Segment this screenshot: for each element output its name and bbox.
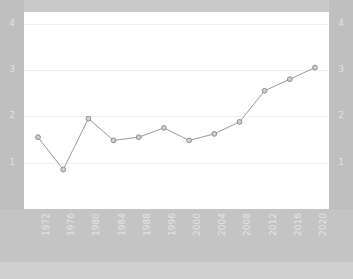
xtick-1996: 1996: [168, 213, 177, 236]
xtick-2016: 2016: [294, 213, 303, 236]
ytick-right-1: 1: [330, 158, 352, 167]
data-point-1972[interactable]: [36, 135, 41, 140]
chart-container: 4 3 2 1 4 3 2 1 197219761980198419881996…: [0, 0, 353, 279]
data-point-1984[interactable]: [111, 138, 116, 143]
ytick-right-2: 2: [330, 111, 352, 120]
xtick-2004: 2004: [218, 213, 227, 236]
data-point-1988[interactable]: [136, 135, 141, 140]
xtick-1984: 1984: [118, 213, 127, 236]
plot-area: [24, 12, 329, 209]
data-point-2020[interactable]: [313, 65, 318, 70]
xtick-1988: 1988: [143, 213, 152, 236]
data-point-1980[interactable]: [86, 116, 91, 121]
data-point-2016[interactable]: [287, 77, 292, 82]
xtick-2000: 2000: [193, 213, 202, 236]
footer-strip: [0, 262, 353, 279]
ytick-left-3: 3: [1, 65, 23, 74]
ytick-right-3: 3: [330, 65, 352, 74]
ytick-left-1: 1: [1, 158, 23, 167]
ytick-right-4: 4: [330, 19, 352, 28]
data-point-2004[interactable]: [212, 132, 217, 137]
xaxis-ticks: 1972197619801984198819962000200420082012…: [24, 209, 329, 262]
xtick-2008: 2008: [243, 213, 252, 236]
line-series: [24, 12, 329, 209]
data-point-1996[interactable]: [162, 126, 167, 131]
xtick-1972: 1972: [42, 213, 51, 236]
xtick-1980: 1980: [92, 213, 101, 236]
data-point-2008[interactable]: [237, 120, 242, 125]
ytick-left-4: 4: [1, 19, 23, 28]
ytick-left-2: 2: [1, 111, 23, 120]
data-point-1976[interactable]: [61, 167, 66, 172]
xtick-2020: 2020: [319, 213, 328, 236]
xtick-2012: 2012: [269, 213, 278, 236]
data-point-2012[interactable]: [262, 88, 267, 93]
xtick-1976: 1976: [67, 213, 76, 236]
series-path: [38, 68, 315, 170]
data-point-2000[interactable]: [187, 138, 192, 143]
